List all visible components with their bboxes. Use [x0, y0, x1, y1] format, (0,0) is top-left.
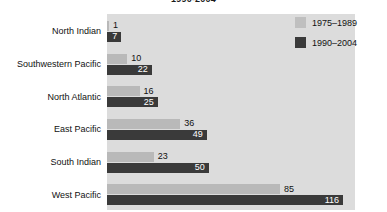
dark-gray-swatch-icon [295, 37, 306, 48]
bar [107, 54, 127, 64]
bar-value-label: 36 [184, 118, 194, 128]
light-gray-swatch-icon [295, 17, 306, 28]
bar [107, 152, 154, 162]
legend-item-1975-1989: 1975–1989 [295, 17, 383, 28]
chart-title: 1990-2004 [0, 0, 387, 4]
category-label-east-pacific: East Pacific [54, 124, 101, 134]
category-label-south-indian: South Indian [50, 157, 101, 167]
bar-value-label: 10 [131, 53, 141, 63]
bar [107, 21, 109, 31]
bar-value-label: 85 [284, 184, 294, 194]
bar [107, 195, 343, 205]
chart-legend: 1975–1989 1990–2004 [295, 17, 383, 57]
bar [107, 163, 209, 173]
bar-value-label: 23 [158, 151, 168, 161]
legend-item-1990-2004: 1990–2004 [295, 37, 383, 48]
category-axis: North IndianSouthwestern PacificNorth At… [0, 14, 104, 210]
bar-value-label: 116 [325, 195, 339, 205]
legend-label: 1975–1989 [312, 18, 357, 28]
bar-value-label: 7 [112, 31, 117, 41]
bar-value-label: 16 [144, 86, 154, 96]
bar-value-label: 1 [113, 20, 118, 30]
category-label-north-indian: North Indian [52, 26, 101, 36]
category-label-west-pacific: West Pacific [52, 190, 101, 200]
legend-label: 1990–2004 [312, 38, 357, 48]
bar-value-label: 50 [195, 162, 205, 172]
bar [107, 86, 140, 96]
bar-chart: 1990-2004 17102216253649235085116 North … [0, 0, 387, 212]
bar-value-label: 49 [193, 129, 203, 139]
category-label-north-atlantic: North Atlantic [47, 92, 101, 102]
bar [107, 119, 180, 129]
category-label-southwestern-pacific: Southwestern Pacific [17, 59, 101, 69]
bar-value-label: 22 [138, 64, 148, 74]
bar-value-label: 25 [144, 97, 154, 107]
bar [107, 184, 280, 194]
